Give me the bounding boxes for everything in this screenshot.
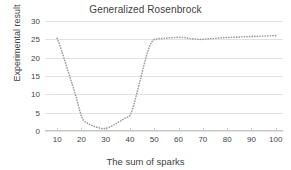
x-tick-label: 80 (223, 135, 232, 144)
x-axis-title: The sum of sparks (0, 156, 291, 167)
chart-container: Generalized Rosenbrock Experimental resu… (0, 0, 291, 170)
x-tick-label: 60 (174, 135, 183, 144)
chart-title: Generalized Rosenbrock (0, 4, 291, 15)
gridline (45, 131, 283, 132)
y-tick-label: 10 (31, 90, 40, 99)
x-tick-label: 20 (77, 135, 86, 144)
y-tick-label: 25 (31, 35, 40, 44)
x-tick-label: 10 (53, 135, 62, 144)
plot-area: 051015202530 102030405060708090100 (45, 21, 283, 131)
y-axis-title: Experimental result (12, 0, 22, 98)
y-tick-label: 15 (31, 72, 40, 81)
x-tick-label: 70 (198, 135, 207, 144)
x-tick-label: 100 (269, 135, 282, 144)
x-tick-label: 50 (150, 135, 159, 144)
y-tick-label: 0 (36, 127, 40, 136)
x-tick-label: 30 (101, 135, 110, 144)
x-tick-label: 90 (247, 135, 256, 144)
y-tick-label: 5 (36, 108, 40, 117)
x-tick-label: 40 (126, 135, 135, 144)
y-tick-label: 30 (31, 17, 40, 26)
y-tick-label: 20 (31, 53, 40, 62)
data-series-line (45, 21, 283, 131)
